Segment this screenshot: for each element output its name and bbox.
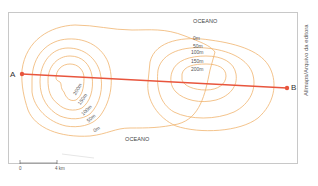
ocean-label-top: OCEANO xyxy=(193,18,217,24)
contour-map xyxy=(0,0,318,186)
point-b-marker xyxy=(285,86,289,90)
right-contour-200m: 200m xyxy=(191,66,204,72)
right-contour-150m: 150m xyxy=(191,58,204,64)
point-a-label: A xyxy=(10,70,15,79)
faint-line xyxy=(62,154,94,158)
image-credit: Allmaps/Arquivo da editora xyxy=(303,24,309,96)
scale-bar xyxy=(20,160,57,164)
point-a-marker xyxy=(20,72,24,76)
scale-start-label: 0 xyxy=(19,166,22,171)
ocean-label-bottom: OCEANO xyxy=(125,136,149,142)
left-island-contours xyxy=(22,25,215,136)
point-b-label: B xyxy=(291,83,296,92)
scale-end-label: 4 km xyxy=(55,166,65,171)
right-contour-0m: 0m xyxy=(193,35,200,41)
right-contour-100m: 100m xyxy=(191,49,204,55)
profile-line xyxy=(22,74,287,88)
